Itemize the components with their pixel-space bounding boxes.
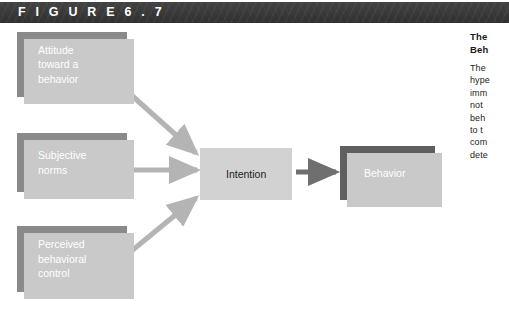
caption-body: The hype imm not beh to t com dete [470, 62, 509, 161]
caption-title: The Beh [470, 31, 509, 56]
figure-header-bar: F I G U R E 6 . 7 [0, 2, 509, 23]
theory-of-planned-behavior-diagram: Attitude toward a behavior Subjective no… [0, 23, 460, 315]
node-intention-label: Intention [200, 167, 274, 182]
node-subjective-norms: Subjective norms [17, 133, 127, 192]
node-behavior-label: Behavior [340, 166, 413, 181]
node-attitude-label: Attitude toward a behavior [17, 43, 86, 87]
arrow-attitude-to-intention [129, 93, 196, 153]
node-attitude-toward-a-behavior: Attitude toward a behavior [17, 32, 127, 97]
figure-caption-panel: The Beh The hype imm not beh to t com de… [470, 31, 509, 161]
node-perceived-behavioral-control: Perceived behavioral control [17, 226, 127, 292]
node-behavior: Behavior [340, 146, 435, 200]
node-subjective-label: Subjective norms [17, 148, 94, 177]
figure-number-label: F I G U R E 6 . 7 [18, 5, 165, 19]
node-intention: Intention [200, 148, 292, 200]
arrow-perceived-to-intention [129, 198, 196, 253]
node-perceived-label: Perceived behavioral control [17, 237, 94, 281]
